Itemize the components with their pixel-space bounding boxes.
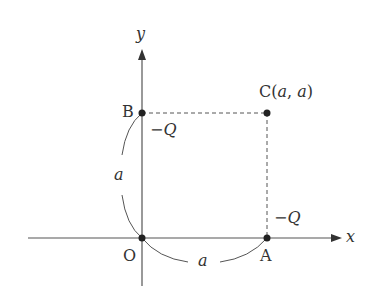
point-C-name: C <box>259 82 271 101</box>
x-axis-arrow-icon <box>331 234 342 242</box>
point-B <box>139 110 146 117</box>
arc-OB-lower <box>122 195 142 238</box>
y-axis-label: y <box>136 26 145 42</box>
point-C-comma: , <box>287 82 292 101</box>
diagram-graphics <box>0 0 376 300</box>
origin-label: O <box>123 248 136 264</box>
point-C-y: a <box>297 82 307 101</box>
point-A-charge: −Q <box>274 210 301 226</box>
diagram-canvas: y x B −Q C(a, a) −Q A O a a <box>0 0 376 300</box>
point-C-close: ) <box>307 82 313 101</box>
y-axis-arrow-icon <box>138 49 146 60</box>
point-origin <box>139 235 146 242</box>
point-A <box>264 235 271 242</box>
distance-OB-label: a <box>114 167 124 183</box>
distance-OA-label: a <box>198 253 208 269</box>
point-C <box>264 110 271 117</box>
arc-OA-left <box>142 238 188 262</box>
point-C-label: C(a, a) <box>259 84 313 100</box>
point-C-x: a <box>278 82 288 101</box>
x-axis-label: x <box>346 229 355 245</box>
point-B-label: B <box>122 104 134 120</box>
point-A-label: A <box>260 248 272 264</box>
point-B-charge: −Q <box>150 122 177 138</box>
